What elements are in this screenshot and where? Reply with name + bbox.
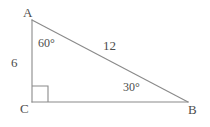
geometry-figure: A C B 6 12 60° 30°: [0, 0, 210, 127]
vertex-label-b: B: [188, 103, 197, 116]
right-angle-marker-icon: [32, 86, 48, 102]
side-length-label-ac: 6: [11, 56, 18, 69]
angle-label-a: 60°: [38, 37, 55, 49]
side-length-label-ab: 12: [103, 39, 116, 52]
vertex-label-c: C: [20, 102, 29, 115]
vertex-label-a: A: [23, 6, 32, 19]
angle-label-b: 30°: [123, 81, 140, 93]
triangle-side-ab-hypotenuse: [32, 20, 188, 102]
